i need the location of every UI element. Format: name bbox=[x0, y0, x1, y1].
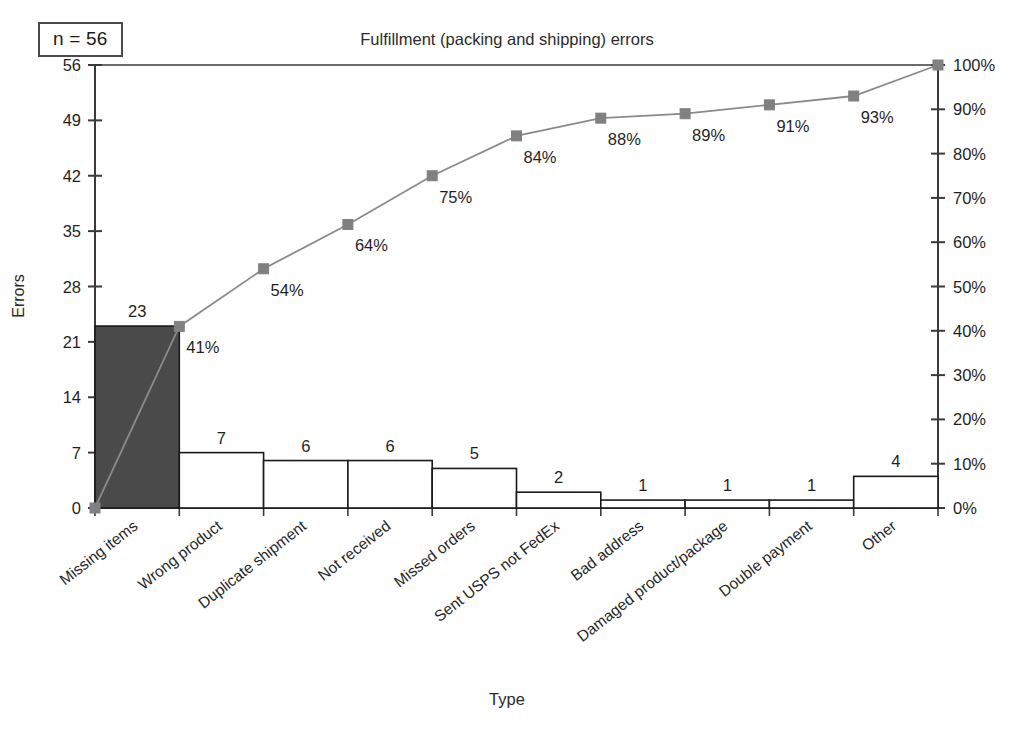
bar-value-label: 7 bbox=[217, 429, 226, 447]
bar bbox=[601, 500, 685, 508]
plot-area: 07142128354249560%10%20%30%40%50%60%70%8… bbox=[0, 0, 1014, 734]
axes: 07142128354249560%10%20%30%40%50%60%70%8… bbox=[63, 56, 996, 517]
cumulative-marker bbox=[343, 219, 353, 229]
category-label: Double payment bbox=[716, 517, 816, 600]
cumulative-percent-labels: 41%54%64%75%84%88%89%91%93%100% bbox=[186, 38, 970, 356]
y-tick-label-left: 56 bbox=[63, 56, 81, 74]
bar bbox=[517, 492, 601, 508]
y-tick-label-left: 7 bbox=[72, 444, 81, 462]
cumulative-percent-label: 93% bbox=[861, 108, 894, 126]
category-label: Missing items bbox=[56, 517, 141, 588]
bar bbox=[179, 453, 263, 508]
y-tick-label-right: 0% bbox=[953, 499, 977, 517]
cumulative-marker bbox=[680, 109, 690, 119]
y-tick-label-right: 80% bbox=[953, 145, 986, 163]
bar bbox=[854, 476, 938, 508]
cumulative-marker bbox=[259, 264, 269, 274]
bar bbox=[348, 461, 432, 508]
bar-value-label: 1 bbox=[807, 476, 816, 494]
y-tick-label-left: 42 bbox=[63, 167, 81, 185]
y-tick-label-left: 14 bbox=[63, 388, 81, 406]
cumulative-marker bbox=[764, 100, 774, 110]
bar-value-label: 23 bbox=[128, 302, 146, 320]
cumulative-marker bbox=[174, 321, 184, 331]
pareto-chart: n = 56 Fulfillment (packing and shipping… bbox=[0, 0, 1014, 734]
cumulative-percent-label: 64% bbox=[355, 236, 388, 254]
cumulative-percent-label: 41% bbox=[186, 338, 219, 356]
cumulative-percent-label: 88% bbox=[608, 130, 641, 148]
cumulative-marker-origin bbox=[90, 503, 100, 513]
bar-value-label: 6 bbox=[301, 437, 310, 455]
bar bbox=[264, 461, 348, 508]
y-tick-label-left: 49 bbox=[63, 111, 81, 129]
cumulative-percent-label: 75% bbox=[439, 188, 472, 206]
y-tick-label-left: 0 bbox=[72, 499, 81, 517]
y-tick-label-right: 20% bbox=[953, 410, 986, 428]
category-labels: Missing itemsWrong productDuplicate ship… bbox=[56, 517, 899, 645]
bar-value-label: 5 bbox=[470, 444, 479, 462]
cumulative-marker bbox=[512, 131, 522, 141]
y-tick-label-left: 35 bbox=[63, 222, 81, 240]
category-label: Bad address bbox=[567, 517, 646, 584]
bar bbox=[769, 500, 853, 508]
bar-value-label: 1 bbox=[723, 476, 732, 494]
bar bbox=[432, 468, 516, 508]
y-tick-label-right: 50% bbox=[953, 278, 986, 296]
bar bbox=[685, 500, 769, 508]
y-tick-label-left: 21 bbox=[63, 333, 81, 351]
y-tick-label-left: 28 bbox=[63, 278, 81, 296]
cumulative-marker bbox=[933, 60, 943, 70]
bar-value-label: 1 bbox=[638, 476, 647, 494]
cumulative-marker bbox=[427, 171, 437, 181]
y-tick-label-right: 60% bbox=[953, 233, 986, 251]
category-label: Wrong product bbox=[135, 517, 226, 593]
category-label: Other bbox=[858, 517, 899, 554]
bar-value-label: 4 bbox=[891, 452, 900, 470]
cumulative-percent-label: 54% bbox=[271, 281, 304, 299]
category-label: Not received bbox=[315, 517, 394, 584]
bar-value-label: 2 bbox=[554, 468, 563, 486]
y-tick-label-right: 30% bbox=[953, 366, 986, 384]
y-tick-label-right: 100% bbox=[953, 56, 996, 74]
cumulative-marker bbox=[596, 113, 606, 123]
cumulative-marker bbox=[849, 91, 859, 101]
category-label: Missed orders bbox=[391, 517, 478, 590]
cumulative-percent-label: 84% bbox=[524, 148, 557, 166]
y-tick-label-right: 10% bbox=[953, 455, 986, 473]
cumulative-percent-label: 89% bbox=[692, 126, 725, 144]
category-label: Damaged product/package bbox=[574, 517, 731, 645]
cumulative-percent-label: 91% bbox=[776, 117, 809, 135]
y-tick-label-right: 40% bbox=[953, 322, 986, 340]
y-tick-label-right: 70% bbox=[953, 189, 986, 207]
bar-value-label: 6 bbox=[385, 437, 394, 455]
y-tick-label-right: 90% bbox=[953, 100, 986, 118]
